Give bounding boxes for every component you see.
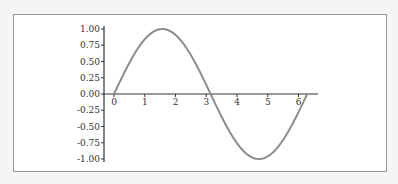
y-tick-label: -0.50 (77, 122, 100, 132)
y-tick-label: 0.50 (80, 57, 100, 67)
y-axis-ticks: 1.000.750.500.250.00-0.25-0.50-0.75-1.00 (77, 24, 104, 164)
x-tick-label: 2 (173, 97, 179, 107)
x-tick-label: 3 (203, 97, 209, 107)
y-tick-label: 0.25 (80, 73, 100, 83)
y-tick-label: -0.75 (77, 138, 100, 148)
x-tick-label: 0 (111, 97, 117, 107)
x-tick-label: 1 (142, 97, 148, 107)
x-tick-label: 5 (265, 97, 271, 107)
y-tick-label: -1.00 (77, 154, 100, 164)
x-tick-label: 4 (234, 97, 240, 107)
y-tick-label: 0.75 (80, 40, 100, 50)
y-tick-label: -0.25 (77, 105, 100, 115)
sine-chart: 1.000.750.500.250.00-0.25-0.50-0.75-1.00… (0, 0, 398, 184)
y-tick-label: 0.00 (80, 89, 100, 99)
y-tick-label: 1.00 (80, 24, 100, 34)
x-axis-ticks: 0123456 (111, 94, 302, 107)
